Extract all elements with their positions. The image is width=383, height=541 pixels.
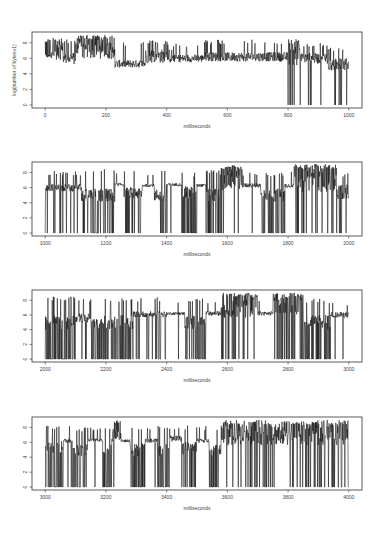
x-tick-label: 2600: [222, 366, 233, 372]
x-tick-label: 0: [44, 112, 47, 118]
y-tick-label: 8: [22, 299, 28, 302]
x-tick-label: 3600: [222, 494, 233, 500]
y-tick-label: 8: [22, 171, 28, 174]
y-tick-label: 6: [22, 441, 28, 444]
traffic-series-line: [45, 420, 348, 487]
y-tick-label: 2: [22, 343, 28, 346]
x-tick-label: 1800: [283, 240, 294, 246]
x-tick-label: 3000: [343, 366, 354, 372]
x-tick-label: 4000: [343, 494, 354, 500]
x-tick-label: 2000: [343, 240, 354, 246]
traffic-series-line: [45, 35, 348, 105]
x-tick-label: 2800: [283, 366, 294, 372]
x-tick-label: 2200: [100, 366, 111, 372]
x-tick-label: 2400: [161, 366, 172, 372]
chart-panel-3: 20002200240026002800300002468millisecond…: [22, 290, 362, 383]
x-tick-label: 1600: [222, 240, 233, 246]
x-tick-label: 3000: [40, 494, 51, 500]
x-axis-title: milliseconds: [183, 377, 211, 383]
y-tick-label: 4: [22, 201, 28, 204]
multi-panel-traffic-chart: 0200400600800100002468millisecondslog(nu…: [0, 0, 383, 541]
y-tick-label: 2: [22, 88, 28, 91]
x-tick-label: 1000: [343, 112, 354, 118]
y-tick-label: 2: [22, 216, 28, 219]
x-tick-label: 1000: [40, 240, 51, 246]
y-tick-label: 8: [22, 41, 28, 44]
x-tick-label: 3400: [161, 494, 172, 500]
y-tick-label: 4: [22, 328, 28, 331]
x-axis-title: milliseconds: [183, 123, 211, 129]
traffic-series-line: [45, 293, 348, 359]
y-tick-label: 6: [22, 57, 28, 60]
x-tick-label: 3200: [100, 494, 111, 500]
chart-panel-2: 10001200140016001800200002468millisecond…: [22, 162, 362, 257]
x-tick-label: 1400: [161, 240, 172, 246]
chart-panel-4: 30003200340036003800400002468millisecond…: [22, 417, 362, 511]
traffic-series-line: [45, 164, 348, 233]
y-tick-label: 0: [22, 103, 28, 106]
x-tick-label: 2000: [40, 366, 51, 372]
y-tick-label: 0: [22, 485, 28, 488]
y-tick-label: 8: [22, 426, 28, 429]
y-tick-label: 4: [22, 72, 28, 75]
y-tick-label: 0: [22, 358, 28, 361]
y-tick-label: 6: [22, 186, 28, 189]
x-tick-label: 200: [102, 112, 111, 118]
y-tick-label: 4: [22, 456, 28, 459]
x-tick-label: 800: [284, 112, 293, 118]
y-tick-label: 2: [22, 471, 28, 474]
chart-panel-1: 0200400600800100002468millisecondslog(nu…: [11, 32, 362, 129]
x-axis-title: milliseconds: [183, 505, 211, 511]
y-axis-title: log(number of bytes+1): [11, 44, 17, 96]
y-tick-label: 0: [22, 231, 28, 234]
x-tick-label: 3800: [283, 494, 294, 500]
x-tick-label: 600: [223, 112, 232, 118]
x-axis-title: milliseconds: [183, 251, 211, 257]
x-tick-label: 400: [162, 112, 171, 118]
y-tick-label: 6: [22, 313, 28, 316]
x-tick-label: 1200: [100, 240, 111, 246]
